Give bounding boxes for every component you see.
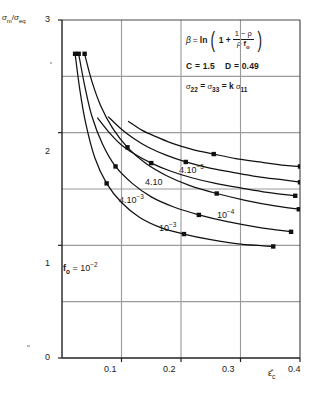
curve-5 xyxy=(129,121,300,166)
marker-1-3 xyxy=(289,230,293,234)
marker-4-1 xyxy=(298,180,302,184)
marker-1-0 xyxy=(76,52,80,56)
marker-0-1 xyxy=(104,181,108,185)
curve-2 xyxy=(85,54,299,209)
plot-canvas xyxy=(0,0,319,403)
marker-2-2 xyxy=(215,191,219,195)
curve-3 xyxy=(98,118,296,196)
figure-container: σm/σeq ε̂c 3 2 1 0 0.1 0.2 0.3 0.4 β = l… xyxy=(0,0,319,403)
marker-0-2 xyxy=(182,232,186,236)
marker-1-2 xyxy=(197,213,201,217)
marker-3-1 xyxy=(293,194,297,198)
marker-1-1 xyxy=(113,164,117,168)
marker-5-1 xyxy=(298,164,302,168)
marker-5-0 xyxy=(212,152,216,156)
marker-0-3 xyxy=(271,244,275,248)
marker-4-0 xyxy=(184,160,188,164)
marker-3-0 xyxy=(149,161,153,165)
curve-1 xyxy=(79,54,291,232)
marker-2-0 xyxy=(82,52,86,56)
series-group xyxy=(73,52,302,249)
